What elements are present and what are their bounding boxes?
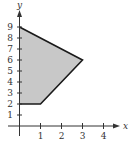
y-tick-label: 6 — [7, 55, 13, 65]
x-axis-arrow-icon — [113, 124, 120, 129]
x-tick-label: 2 — [59, 131, 65, 141]
y-axis-label: y — [16, 0, 23, 10]
x-tick-label: 3 — [80, 131, 86, 141]
y-tick-label: 9 — [7, 22, 13, 32]
y-tick-label: 7 — [7, 44, 13, 54]
y-tick-label: 4 — [7, 77, 13, 87]
y-tick-label: 5 — [7, 66, 13, 76]
y-axis-arrow-icon — [17, 10, 22, 17]
x-axis-label: x — [123, 121, 128, 131]
y-tick-label: 3 — [7, 88, 13, 98]
y-tick-label: 8 — [7, 33, 13, 43]
y-tick-label: 2 — [7, 99, 13, 109]
feasible-region-graph: 1 2 3 4 1 2 3 4 5 6 7 8 9 x y — [0, 0, 134, 144]
x-tick-label: 4 — [101, 131, 107, 141]
y-tick-label: 1 — [7, 110, 13, 120]
x-tick-label: 1 — [38, 131, 44, 141]
